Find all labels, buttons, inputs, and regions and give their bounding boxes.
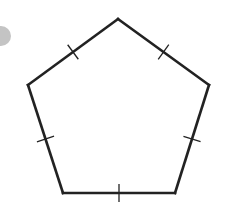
tick-marks	[37, 45, 201, 202]
tick-mark-top-left-side	[68, 45, 79, 60]
pentagon-sides	[28, 19, 209, 193]
partial-gray-circle	[0, 26, 11, 46]
pentagon-diagram	[0, 0, 226, 224]
tick-mark-top-right-side	[158, 45, 169, 60]
